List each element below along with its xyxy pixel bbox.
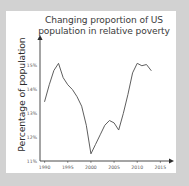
x-tick-label: 2015: [155, 165, 167, 170]
x-axis-arrow-icon: [169, 158, 174, 163]
poverty-rate-series-line: [45, 63, 151, 154]
y-axis-arrow-icon: [37, 35, 42, 40]
y-tick-label: 15%: [27, 63, 38, 68]
chart-figure: Changing proportion of US population in …: [6, 11, 176, 173]
x-tick-label: 1990: [39, 165, 51, 170]
y-tick-label: 11%: [27, 159, 38, 164]
y-tick-label: 14%: [27, 87, 38, 92]
x-tick-label: 2000: [85, 165, 97, 170]
y-tick-label-group: 11%12%13%14%15%: [27, 63, 38, 163]
x-tick-label: 1995: [62, 165, 74, 170]
x-tick-label: 2010: [131, 165, 143, 170]
y-tick-label: 12%: [27, 135, 38, 140]
line-chart-plot: 11%12%13%14%15% 199019952000200520102015: [6, 11, 176, 173]
x-tick-label-group: 199019952000200520102015: [39, 165, 167, 170]
y-tick-label: 13%: [27, 111, 38, 116]
x-tick-label: 2005: [108, 165, 120, 170]
